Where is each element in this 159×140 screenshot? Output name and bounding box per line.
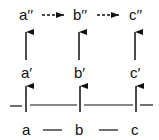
node-a-prime: a′ [21,64,32,81]
diagram-canvas: a′′ b′′ c′′ a′ b′ c′ a b c [0,0,159,140]
node-c-prime: c′ [130,64,141,81]
node-b-double-prime: b′′ [73,6,87,23]
baseline [10,105,153,106]
node-c: c [131,121,139,138]
node-b-prime: b′ [74,64,85,81]
node-a: a [22,121,31,138]
node-a-double-prime: a′′ [19,6,33,23]
node-c-double-prime: c′′ [129,6,142,23]
node-b: b [75,121,83,138]
